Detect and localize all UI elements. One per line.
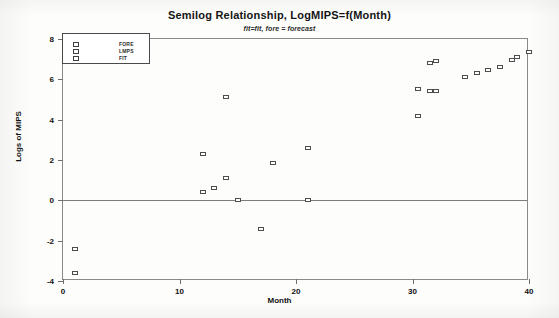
y-tick-label: 2 [14,156,54,165]
data-point [474,71,480,75]
data-point [235,198,241,202]
data-point [462,75,468,79]
x-axis-label: Month [0,296,559,305]
y-tick-label: -2 [14,236,54,245]
x-tick-mark [180,279,181,284]
data-point [72,247,78,251]
data-point [305,146,311,150]
data-point [497,65,503,69]
x-tick-mark [296,279,297,284]
legend-marker-square-icon [73,49,79,54]
data-point [485,68,491,72]
x-tick-mark [63,279,64,284]
y-tick-mark [58,241,63,242]
data-point [258,227,264,231]
legend-label: FIT [119,55,127,61]
legend-label: FORE [119,41,134,47]
legend-item: FIT [73,54,79,62]
data-point [223,176,229,180]
legend-marker-square-icon [73,56,79,61]
data-point [305,198,311,202]
zero-reference-line [63,200,527,201]
x-tick-label: 30 [398,287,428,296]
chart-subtitle: fit=fit, fore = forecast [0,25,559,32]
data-point [200,152,206,156]
chart-legend: FORELMPSFIT [62,33,150,64]
y-tick-mark [58,79,63,80]
y-tick-label: 4 [14,115,54,124]
chart-page: Semilog Relationship, LogMIPS=f(Month) f… [0,0,559,318]
y-tick-label: -4 [14,277,54,286]
data-point [211,186,217,190]
plot-area: 86420-2-4 010203040 [62,38,528,280]
legend-label: LMPS [119,48,134,54]
x-tick-label: 20 [281,287,311,296]
x-tick-label: 10 [165,287,195,296]
data-point [514,55,520,59]
y-tick-label: 8 [14,35,54,44]
x-tick-mark [413,279,414,284]
data-point [200,190,206,194]
x-tick-mark [529,279,530,284]
x-tick-label: 40 [514,287,544,296]
data-point [223,95,229,99]
data-point [415,114,421,118]
data-point [433,59,439,63]
legend-marker-square-icon [73,42,79,47]
data-point [415,87,421,91]
data-point [526,50,532,54]
y-tick-mark [58,120,63,121]
y-tick-label: 0 [14,196,54,205]
data-point [270,161,276,165]
y-tick-mark [58,160,63,161]
y-tick-label: 6 [14,75,54,84]
data-point [72,271,78,275]
y-axis-label: Logs of MIPS [14,87,23,187]
x-tick-label: 0 [48,287,78,296]
data-point [433,89,439,93]
chart-title: Semilog Relationship, LogMIPS=f(Month) [0,9,559,21]
